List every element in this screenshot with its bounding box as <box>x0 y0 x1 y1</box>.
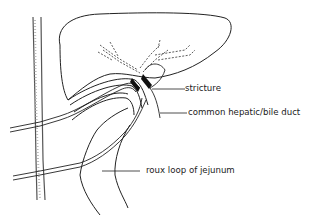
label-common-hepatic-bile-duct: common hepatic/bile duct <box>188 108 300 117</box>
roux-loop <box>68 79 148 215</box>
vertical-tube <box>33 17 45 200</box>
label-roux-loop: roux loop of jejunum <box>146 166 235 175</box>
diagram-canvas: stricture common hepatic/bile duct roux … <box>0 0 322 220</box>
transhepatic-tube-lower <box>13 98 146 180</box>
common-hepatic-duct <box>150 88 160 118</box>
transhepatic-tube-upper <box>10 83 140 132</box>
label-stricture: stricture <box>185 84 221 93</box>
